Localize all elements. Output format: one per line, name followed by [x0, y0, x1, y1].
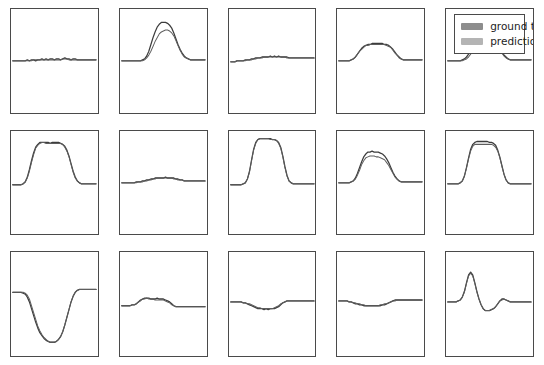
panel-cell-7: [109, 122, 218, 244]
plot-panel-2: [119, 8, 208, 114]
plot-lines-11: [11, 252, 98, 356]
plot-panel-15: [445, 251, 534, 357]
legend-swatch-icon-ground-truth: [461, 23, 483, 30]
prediction-line-2: [122, 30, 205, 61]
ground-truth-line-6: [13, 142, 96, 184]
plot-panel-10: [445, 130, 534, 236]
panel-cell-1: [0, 0, 109, 122]
legend-label-prediction: prediction: [490, 36, 534, 47]
plot-lines-15: [446, 252, 533, 356]
plot-lines-3: [229, 9, 316, 113]
prediction-line-15: [448, 273, 531, 310]
panel-cell-4: [326, 0, 435, 122]
panel-grid: ground truthprediction: [0, 0, 544, 365]
prediction-line-3: [230, 57, 313, 62]
prediction-line-9: [339, 156, 422, 183]
plot-panel-6: [10, 130, 99, 236]
ground-truth-line-8: [230, 138, 313, 184]
figure-panel-grid: ground truthprediction: [0, 0, 544, 365]
plot-lines-2: [120, 9, 207, 113]
panel-cell-15: [435, 243, 544, 365]
panel-cell-2: [109, 0, 218, 122]
prediction-line-6: [13, 142, 96, 184]
plot-lines-4: [337, 9, 424, 113]
panel-cell-10: [435, 122, 544, 244]
panel-cell-8: [218, 122, 327, 244]
plot-lines-13: [229, 252, 316, 356]
legend-label-ground-truth: ground truth: [490, 21, 534, 32]
plot-panel-8: [228, 130, 317, 236]
prediction-line-7: [122, 178, 205, 183]
legend-item-ground-truth[interactable]: ground truth: [461, 19, 518, 34]
plot-lines-12: [120, 252, 207, 356]
ground-truth-line-4: [339, 44, 422, 61]
plot-lines-10: [446, 131, 533, 235]
prediction-line-13: [230, 301, 313, 309]
plot-lines-1: [11, 9, 98, 113]
legend-swatch-icon-prediction: [461, 38, 483, 45]
panel-cell-5: ground truthprediction: [435, 0, 544, 122]
prediction-line-10: [448, 144, 531, 183]
plot-panel-4: [336, 8, 425, 114]
ground-truth-line-15: [448, 272, 531, 310]
plot-panel-9: [336, 130, 425, 236]
prediction-line-8: [230, 138, 313, 184]
ground-truth-line-9: [339, 151, 422, 183]
plot-panel-5: ground truthprediction: [445, 8, 534, 114]
panel-cell-11: [0, 243, 109, 365]
plot-lines-7: [120, 131, 207, 235]
panel-cell-14: [326, 243, 435, 365]
plot-lines-14: [337, 252, 424, 356]
plot-panel-11: [10, 251, 99, 357]
panel-cell-9: [326, 122, 435, 244]
plot-lines-6: [11, 131, 98, 235]
ground-truth-line-11: [13, 290, 96, 343]
prediction-line-11: [13, 290, 96, 343]
plot-panel-3: [228, 8, 317, 114]
ground-truth-line-2: [122, 22, 205, 60]
plot-panel-14: [336, 251, 425, 357]
plot-lines-8: [229, 131, 316, 235]
panel-cell-6: [0, 122, 109, 244]
prediction-line-14: [339, 300, 422, 306]
plot-panel-12: [119, 251, 208, 357]
prediction-line-4: [339, 44, 422, 60]
ground-truth-line-12: [122, 298, 205, 307]
plot-lines-9: [337, 131, 424, 235]
panel-cell-3: [218, 0, 327, 122]
legend: ground truthprediction: [454, 14, 525, 54]
ground-truth-line-10: [448, 141, 531, 183]
panel-cell-13: [218, 243, 327, 365]
legend-item-prediction[interactable]: prediction: [461, 34, 518, 49]
plot-panel-1: [10, 8, 99, 114]
panel-cell-12: [109, 243, 218, 365]
plot-panel-13: [228, 251, 317, 357]
plot-panel-7: [119, 130, 208, 236]
